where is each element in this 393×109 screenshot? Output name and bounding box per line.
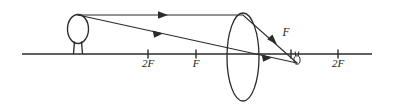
diagram-canvas: 2F F F 2F xyxy=(0,0,393,109)
ray-center-arrow-2 xyxy=(262,55,272,62)
ray-parallel-arrow-1 xyxy=(158,11,168,18)
label-f-upper-right: F xyxy=(281,26,290,38)
label-2f-right: 2F xyxy=(332,57,345,69)
object-stem-left xyxy=(74,42,75,55)
object-stem-right xyxy=(82,42,83,55)
label-f-left: F xyxy=(192,57,200,69)
object-group xyxy=(68,15,89,55)
converging-lens-ellipse xyxy=(227,13,259,101)
ray-center-arrow-1 xyxy=(153,31,163,38)
label-2f-left: 2F xyxy=(142,57,155,69)
optics-ray-diagram: 2F F F 2F xyxy=(0,0,393,109)
object-bulb-body xyxy=(68,15,89,44)
ray-center-group xyxy=(78,15,297,63)
ray-parallel-arrow-2 xyxy=(267,35,277,45)
